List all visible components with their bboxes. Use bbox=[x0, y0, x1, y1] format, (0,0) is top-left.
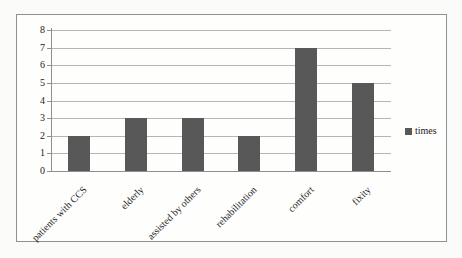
bar-patients-with-ccs bbox=[68, 136, 90, 171]
bar-rehabilitation bbox=[238, 136, 260, 171]
bar-fixity bbox=[352, 83, 374, 171]
y-axis-tick bbox=[47, 171, 51, 172]
bar-assisted-by-others bbox=[182, 118, 204, 171]
bar-comfort bbox=[295, 48, 317, 171]
x-axis-line bbox=[47, 171, 391, 172]
legend-label: times bbox=[415, 125, 437, 137]
gridline bbox=[51, 48, 391, 49]
legend: times bbox=[405, 125, 437, 137]
gridline bbox=[51, 153, 391, 154]
y-axis-tick-label: 8 bbox=[19, 24, 45, 36]
y-axis-tick-label: 2 bbox=[19, 130, 45, 142]
gridline bbox=[51, 136, 391, 137]
y-axis-tick-label: 3 bbox=[19, 112, 45, 124]
y-axis-tick-label: 0 bbox=[19, 165, 45, 177]
y-axis-tick-label: 6 bbox=[19, 59, 45, 71]
gridline bbox=[51, 30, 391, 31]
y-axis-tick bbox=[47, 83, 51, 84]
gridline bbox=[51, 83, 391, 84]
y-axis-tick bbox=[47, 136, 51, 137]
y-axis-tick-label: 7 bbox=[19, 42, 45, 54]
gridline bbox=[51, 65, 391, 66]
y-axis-tick-label: 1 bbox=[19, 147, 45, 159]
gridline bbox=[51, 101, 391, 102]
y-axis-tick bbox=[47, 65, 51, 66]
bar-elderly bbox=[125, 118, 147, 171]
y-axis-tick-label: 5 bbox=[19, 77, 45, 89]
y-axis-tick bbox=[47, 48, 51, 49]
y-axis-tick bbox=[47, 153, 51, 154]
y-axis-tick bbox=[47, 118, 51, 119]
y-axis-tick bbox=[47, 30, 51, 31]
x-axis-label-fixity: fixity bbox=[280, 184, 373, 258]
y-axis-tick-label: 4 bbox=[19, 95, 45, 107]
y-axis-line bbox=[51, 28, 52, 171]
chart-frame: 012345678patients with CCSelderlyassiste… bbox=[16, 14, 447, 242]
y-axis-tick bbox=[47, 101, 51, 102]
legend-series-marker-icon bbox=[405, 128, 412, 135]
scanned-chart-figure: 012345678patients with CCSelderlyassiste… bbox=[0, 0, 462, 258]
gridline bbox=[51, 118, 391, 119]
